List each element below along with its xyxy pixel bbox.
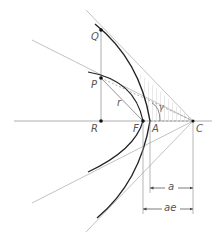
label-dim-a: a <box>168 182 174 192</box>
point-f <box>141 119 145 123</box>
point-r <box>99 119 103 123</box>
point-p <box>99 76 103 80</box>
label-dim-ae: ae <box>164 203 176 213</box>
point-q <box>99 28 103 32</box>
upper-tangent-line <box>32 40 193 121</box>
label-p: P <box>91 80 97 90</box>
label-r-radius: r <box>117 98 121 108</box>
point-c <box>192 120 195 123</box>
label-a: A <box>152 124 159 134</box>
label-q: Q <box>91 32 99 42</box>
hatched-region <box>138 72 193 121</box>
diagram-svg <box>0 0 219 238</box>
radius-r-line <box>101 78 143 121</box>
lower-asymptote <box>86 121 193 232</box>
label-r: R <box>91 124 98 134</box>
hyperbola-diagram: Q P R F A C r γ a ae <box>0 0 219 238</box>
label-f: F <box>133 124 139 134</box>
label-gamma: γ <box>159 104 164 112</box>
upper-asymptote <box>86 10 193 121</box>
label-c: C <box>196 124 203 134</box>
